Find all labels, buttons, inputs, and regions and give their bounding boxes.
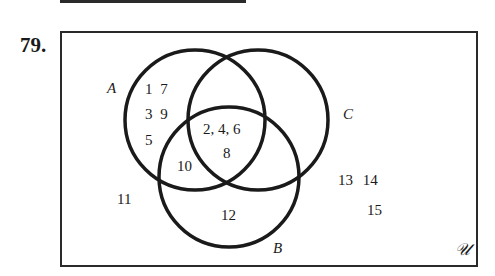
region-a-only-row2: 3 9 (145, 106, 168, 123)
universe-box (61, 32, 477, 266)
universe-label: 𝒰 (455, 240, 470, 260)
set-label-a: A (107, 80, 116, 97)
region-a-and-b-only: 10 (177, 158, 192, 175)
region-a-only-row1: 1 7 (145, 81, 168, 98)
region-abc-line2: 8 (223, 145, 231, 162)
circle-c (188, 50, 328, 190)
region-outside-right-row1: 13 14 (338, 172, 378, 189)
region-b-only: 12 (221, 207, 236, 224)
venn-diagram (0, 0, 495, 276)
region-outside-right-row2: 15 (367, 202, 382, 219)
region-a-only-row3: 5 (145, 132, 153, 149)
region-outside-left: 11 (117, 191, 131, 208)
set-label-c: C (343, 106, 353, 123)
set-label-b: B (273, 240, 282, 257)
region-abc: 2, 4, 6 (203, 121, 241, 138)
